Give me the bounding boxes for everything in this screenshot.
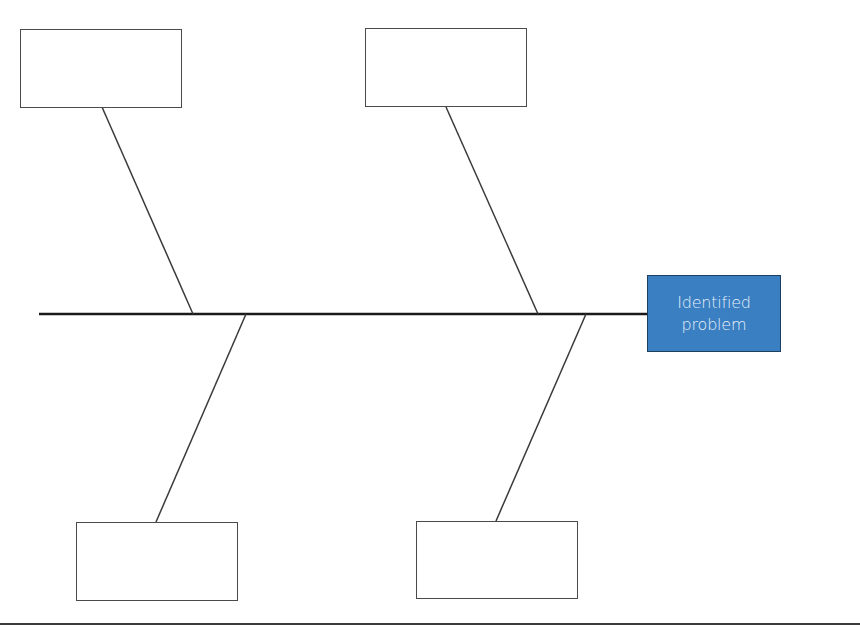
effect-box: Identified problem xyxy=(647,275,781,352)
bone-bottom-right xyxy=(496,314,586,521)
bottom-divider xyxy=(0,623,860,625)
cause-box-top-left xyxy=(20,29,182,108)
cause-box-bottom-left xyxy=(76,522,238,601)
bone-bottom-left xyxy=(156,314,246,522)
fishbone-diagram: Identified problem xyxy=(0,0,860,638)
effect-label: Identified problem xyxy=(659,292,769,336)
cause-box-top-right xyxy=(365,28,527,107)
bone-top-left xyxy=(102,107,193,314)
cause-box-bottom-right xyxy=(416,521,578,599)
bone-top-right xyxy=(446,107,538,314)
